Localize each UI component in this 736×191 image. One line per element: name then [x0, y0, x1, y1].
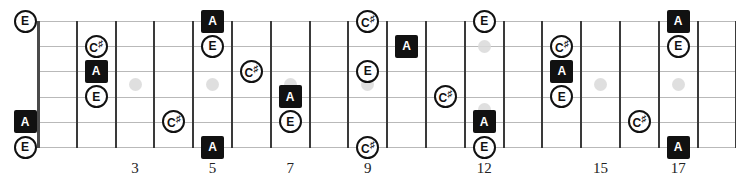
note-marker-A-s2-f10: A — [395, 35, 418, 58]
fret-line-17 — [697, 21, 699, 148]
fret-number-15: 15 — [586, 160, 616, 177]
fret-line-2 — [115, 21, 117, 148]
note-marker-A-s5-f0: A — [14, 110, 37, 133]
note-marker-E-s4-f14: E — [550, 85, 573, 108]
fret-line-3 — [153, 21, 155, 148]
fret-line-13 — [541, 21, 543, 148]
fret-number-5: 5 — [198, 160, 228, 177]
note-marker-Csharp-s2-f14: C♯ — [550, 35, 573, 58]
fret-line-7 — [309, 21, 311, 148]
note-marker-Csharp-s2-f2: C♯ — [85, 35, 108, 58]
fret-number-3: 3 — [120, 160, 150, 177]
note-marker-E-s4-f2: E — [85, 85, 108, 108]
note-marker-E-s6-f12: E — [473, 136, 496, 159]
fret-line-4 — [192, 21, 194, 148]
nut — [37, 21, 40, 148]
note-marker-E-s3-f9: E — [356, 60, 379, 83]
fret-inlay-dot — [594, 78, 607, 91]
note-marker-E-s1-f12: E — [473, 10, 496, 33]
note-marker-E-s1-f0: E — [14, 10, 37, 33]
note-marker-A-s6-f5: A — [201, 136, 224, 159]
fret-line-15 — [619, 21, 621, 148]
note-marker-Csharp-s6-f9: C♯ — [356, 136, 379, 159]
note-marker-E-s2-f5: E — [201, 35, 224, 58]
note-marker-Csharp-s1-f9: C♯ — [356, 10, 379, 33]
fret-number-9: 9 — [353, 160, 383, 177]
fret-number-7: 7 — [275, 160, 305, 177]
note-marker-A-s3-f14: A — [550, 60, 573, 83]
fret-line-6 — [270, 21, 272, 148]
note-marker-Csharp-s4-f11: C♯ — [434, 85, 457, 108]
fret-line-5 — [231, 21, 233, 148]
note-marker-A-s4-f7: A — [279, 85, 302, 108]
fret-line-9 — [386, 21, 388, 148]
fret-line-8 — [347, 21, 349, 148]
note-marker-E-s5-f7: E — [279, 110, 302, 133]
note-marker-A-s1-f5: A — [201, 10, 224, 33]
note-marker-A-s6-f17: A — [667, 136, 690, 159]
fret-inlay-dot — [129, 78, 142, 91]
note-marker-Csharp-s3-f6: C♯ — [240, 60, 263, 83]
note-marker-Csharp-s5-f4: C♯ — [162, 110, 185, 133]
note-marker-Csharp-s5-f16: C♯ — [628, 110, 651, 133]
fret-line-14 — [580, 21, 582, 148]
note-marker-E-s2-f17: E — [667, 35, 690, 58]
fretboard: EAEC♯AEC♯AEAC♯AEC♯EC♯AC♯EAEC♯AEC♯AEA3579… — [0, 0, 736, 191]
fret-line-10 — [425, 21, 427, 148]
note-marker-A-s5-f12: A — [473, 110, 496, 133]
fret-line-1 — [76, 21, 78, 148]
fret-line-12 — [503, 21, 505, 148]
fret-inlay-dot — [206, 78, 219, 91]
fret-inlay-dot — [672, 78, 685, 91]
fret-line-11 — [464, 21, 466, 148]
fret-line-16 — [658, 21, 660, 148]
fret-number-17: 17 — [663, 160, 693, 177]
fret-number-12: 12 — [469, 160, 499, 177]
fretboard-diagram: EAEC♯AEC♯AEAC♯AEC♯EC♯AC♯EAEC♯AEC♯AEA3579… — [0, 0, 736, 191]
note-marker-E-s6-f0: E — [14, 136, 37, 159]
note-marker-A-s1-f17: A — [667, 10, 690, 33]
note-marker-A-s3-f2: A — [85, 60, 108, 83]
fret-inlay-dot — [478, 40, 491, 53]
